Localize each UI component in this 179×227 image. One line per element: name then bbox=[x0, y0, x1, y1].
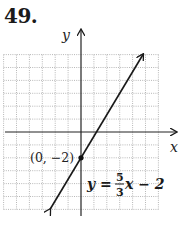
equation-denominator: 3 bbox=[116, 186, 124, 199]
equation-rhs: x − 2 bbox=[124, 176, 165, 192]
y-axis-label: y bbox=[61, 27, 71, 43]
intercept-point bbox=[78, 155, 83, 160]
equation-lhs: y = bbox=[86, 176, 112, 192]
x-axis-label: x bbox=[170, 139, 178, 155]
equation-numerator: 5 bbox=[116, 171, 124, 184]
point-label: (0, −2) bbox=[30, 150, 74, 165]
graph: y x (0, −2) y = 5 3 x − 2 bbox=[0, 0, 179, 227]
equation-label: y = 5 3 x − 2 bbox=[86, 171, 165, 199]
